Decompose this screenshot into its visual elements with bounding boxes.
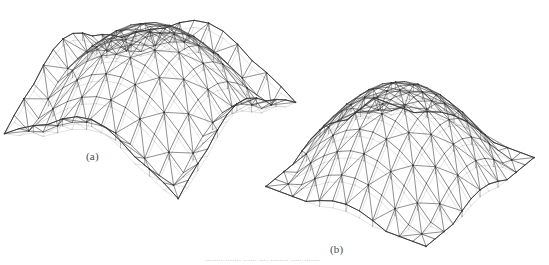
wireframe-drawing-canvas	[0, 0, 549, 265]
sublabel-b: (b)	[330, 243, 343, 255]
figure-container: (a) (b) ........ ....... ...... .... ...…	[0, 0, 549, 265]
caption-sliver: ........ ....... ...... .... ........ ..…	[205, 259, 549, 265]
figure-background	[0, 0, 549, 265]
sublabel-a: (a)	[86, 150, 99, 162]
caption-sliver-text: ........ ....... ...... .... ........ ..…	[205, 259, 549, 263]
